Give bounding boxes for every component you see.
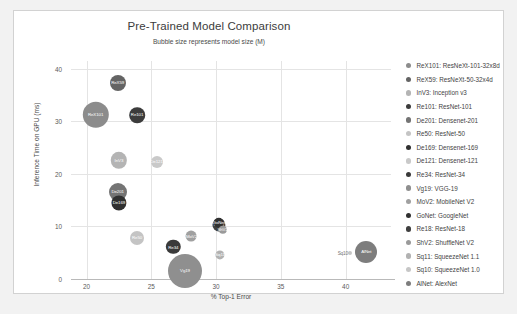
bubble-alnet[interactable]: AlNet bbox=[355, 241, 377, 263]
chart-title: Pre-Trained Model Comparison bbox=[14, 20, 404, 32]
legend-label: AlNet: AlexNet bbox=[416, 280, 457, 287]
legend-label: Sq11: SqueezeNet 1.1 bbox=[416, 253, 479, 260]
legend-label: Re50: ResNet-50 bbox=[416, 130, 465, 137]
legend-marker-icon bbox=[406, 267, 411, 272]
legend-label: ShV2: ShuffleNet V2 bbox=[416, 239, 474, 246]
gridline-vertical bbox=[281, 61, 282, 279]
legend-item-rex101[interactable]: ReX101: ResNeXt-101-32x8d bbox=[406, 59, 517, 73]
legend-item-re101[interactable]: Re101: ResNet-101 bbox=[406, 100, 517, 114]
bubble-mov2[interactable]: MoV2 bbox=[186, 231, 197, 242]
legend-item-rex59[interactable]: ReX59: ResNeXt-50-32x4d bbox=[406, 73, 517, 87]
legend-item-de121[interactable]: De121: Densenet-121 bbox=[406, 154, 517, 168]
x-tick-label: 35 bbox=[277, 283, 284, 290]
legend-marker-icon bbox=[406, 145, 411, 150]
bubble-label: ReX59 bbox=[111, 80, 124, 85]
bubble-re101[interactable]: Re101 bbox=[129, 107, 145, 123]
bubble-label: AlNet bbox=[361, 249, 371, 254]
bubble-label: Re101 bbox=[131, 113, 143, 118]
legend-label: Re18: ResNet-18 bbox=[416, 225, 465, 232]
legend-label: De121: Densenet-121 bbox=[416, 157, 478, 164]
bubble-shv2[interactable]: ShV2 bbox=[218, 225, 226, 233]
legend-label: InV3: Inception v3 bbox=[416, 89, 466, 96]
legend-item-re50[interactable]: Re50: ResNet-50 bbox=[406, 127, 517, 141]
bubble-label: MoV2 bbox=[186, 233, 197, 238]
legend-item-de201[interactable]: De201: Densenet-201 bbox=[406, 113, 517, 127]
legend-marker-icon bbox=[406, 226, 411, 231]
legend-item-mov2[interactable]: MoV2: MobileNet V2 bbox=[406, 195, 517, 209]
legend-item-gonet[interactable]: GoNet: GoogleNet bbox=[406, 209, 517, 223]
bubble-re34[interactable]: Re34 bbox=[166, 240, 180, 254]
legend-item-sq10[interactable]: Sq10: SqueezeNet 1.0 bbox=[406, 263, 517, 277]
x-tick-label: 20 bbox=[83, 283, 90, 290]
bubble-label: ShV2 bbox=[217, 227, 227, 232]
gridline-horizontal bbox=[71, 121, 391, 122]
legend: ReX101: ResNeXt-101-32x8dReX59: ResNeXt-… bbox=[406, 59, 517, 290]
screenshot-root: Pre-Trained Model Comparison Bubble size… bbox=[0, 0, 517, 314]
legend-marker-icon bbox=[406, 117, 411, 122]
legend-item-re34[interactable]: Re34: ResNet-34 bbox=[406, 168, 517, 182]
legend-marker-icon bbox=[406, 158, 411, 163]
legend-label: De201: Densenet-201 bbox=[416, 117, 478, 124]
bubble-label: Re50 bbox=[132, 235, 142, 240]
legend-marker-icon bbox=[406, 131, 411, 136]
legend-label: Re101: ResNet-101 bbox=[416, 103, 472, 110]
bubble-vg19[interactable]: Vg19 bbox=[168, 254, 202, 288]
x-tick-label: 25 bbox=[148, 283, 155, 290]
bubble-label: Vg19 bbox=[180, 268, 190, 273]
bubble-de169[interactable]: De169 bbox=[111, 195, 126, 210]
legend-item-alnet[interactable]: AlNet: AlexNet bbox=[406, 277, 517, 291]
legend-marker-icon bbox=[406, 213, 411, 218]
legend-item-de169[interactable]: De169: Densenet-169 bbox=[406, 141, 517, 155]
bubble-sq11[interactable]: Sq11 bbox=[215, 250, 224, 259]
bubble-re50[interactable]: Re50 bbox=[130, 231, 144, 245]
x-tick-label: 40 bbox=[342, 283, 349, 290]
legend-marker-icon bbox=[406, 90, 411, 95]
legend-label: ReX59: ResNeXt-50-32x4d bbox=[416, 76, 492, 83]
legend-item-inv3[interactable]: InV3: Inception v3 bbox=[406, 86, 517, 100]
legend-item-re18[interactable]: Re18: ResNet-18 bbox=[406, 222, 517, 236]
legend-marker-icon bbox=[406, 281, 411, 286]
y-axis-label: Inference Time on GPU (ms) bbox=[33, 75, 40, 215]
x-tick-label: 30 bbox=[213, 283, 220, 290]
legend-marker-icon bbox=[406, 240, 411, 245]
y-tick-label: 40 bbox=[55, 65, 62, 72]
y-tick-label: 10 bbox=[55, 223, 62, 230]
plot-area: 2025303540 010203040 Vg19ReX101AlNetDe20… bbox=[71, 61, 391, 279]
legend-label: MoV2: MobileNet V2 bbox=[416, 198, 474, 205]
gridline-vertical bbox=[151, 61, 152, 279]
legend-marker-icon bbox=[406, 253, 411, 258]
bubble-label: ReX101 bbox=[88, 112, 103, 117]
bubble-label: InV3 bbox=[115, 158, 124, 163]
bubble-label: Re34 bbox=[168, 244, 178, 249]
bubble-label: De201 bbox=[111, 189, 123, 194]
legend-item-sq11[interactable]: Sq11: SqueezeNet 1.1 bbox=[406, 249, 517, 263]
bubble-label: De169 bbox=[113, 200, 125, 205]
legend-label: Re34: ResNet-34 bbox=[416, 171, 465, 178]
legend-marker-icon bbox=[406, 104, 411, 109]
bubble-sq10[interactable]: Sq10 bbox=[348, 251, 352, 255]
bubble-inv3[interactable]: InV3 bbox=[111, 152, 127, 168]
legend-label: Sq10: SqueezeNet 1.0 bbox=[416, 266, 479, 273]
legend-label: GoNet: GoogleNet bbox=[416, 212, 468, 219]
gridline-horizontal bbox=[71, 174, 391, 175]
gridline-horizontal bbox=[71, 226, 391, 227]
bubble-rex59[interactable]: ReX59 bbox=[110, 75, 126, 91]
y-tick-label: 0 bbox=[58, 276, 62, 283]
bubble-rex101[interactable]: ReX101 bbox=[82, 101, 108, 127]
gridline-vertical bbox=[346, 61, 347, 279]
gridline-horizontal bbox=[71, 69, 391, 70]
bubble-de121[interactable]: De121 bbox=[151, 156, 163, 168]
legend-marker-icon bbox=[406, 172, 411, 177]
legend-item-shv2[interactable]: ShV2: ShuffleNet V2 bbox=[406, 236, 517, 250]
gridline-vertical bbox=[216, 61, 217, 279]
bubble-label: Sq11 bbox=[215, 252, 225, 257]
legend-label: Vg19: VGG-19 bbox=[416, 185, 457, 192]
x-axis-label: % Top-1 Error bbox=[71, 293, 391, 300]
legend-label: ReX101: ResNeXt-101-32x8d bbox=[416, 62, 499, 69]
legend-label: De169: Densenet-169 bbox=[416, 144, 478, 151]
y-tick-label: 20 bbox=[55, 170, 62, 177]
y-tick-label: 30 bbox=[55, 118, 62, 125]
legend-item-vg19[interactable]: Vg19: VGG-19 bbox=[406, 181, 517, 195]
gridline-vertical bbox=[87, 61, 88, 279]
legend-marker-icon bbox=[406, 63, 411, 68]
